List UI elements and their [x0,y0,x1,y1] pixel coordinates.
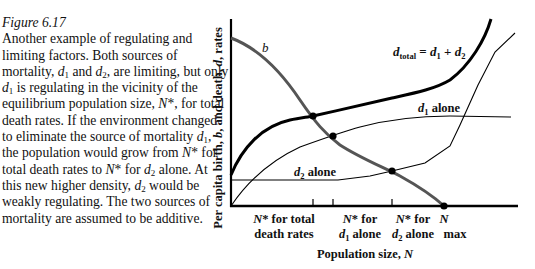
curve-b [231,38,444,206]
point-nstar-d1 [329,132,336,139]
label-d1-alone: d1 alone [418,101,461,117]
svg-text:d1 alone: d1 alone [339,227,382,243]
point-nstar-total [309,112,316,119]
svg-text:d2 alone: d2 alone [392,227,435,243]
x-axis-label: Population size, N [317,247,414,261]
point-nstar-d2 [388,167,395,174]
regulation-chart: Per capita birth, b, and death, d, rates… [0,0,535,269]
svg-text:N* for: N* for [342,212,378,226]
point-nmax [440,202,447,209]
svg-text:N* for total: N* for total [252,212,315,226]
curve-d-total [231,19,491,175]
x-tick-labels: N* for total death rates N* for d1 alone… [252,212,467,243]
label-b: b [262,40,269,55]
svg-text:N: N [438,212,449,226]
label-d-total: dtotal = d1 + d2 [393,44,465,61]
svg-text:death rates: death rates [254,227,313,241]
svg-text:max: max [444,227,468,241]
svg-text:N* for: N* for [395,212,431,226]
label-d2-alone: d2 alone [294,165,337,181]
y-axis-label: Per capita birth, b, and death, d, rates [211,27,225,229]
